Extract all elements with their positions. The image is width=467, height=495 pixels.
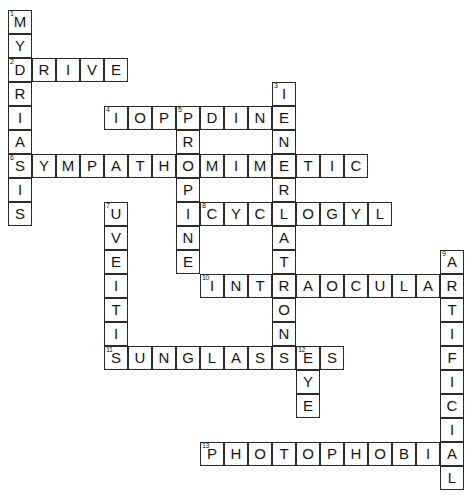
crossword-cell-r18-c15[interactable]: O [368,442,392,466]
crossword-cell-r8-c14[interactable]: Y [344,202,368,226]
crossword-cell-r17-c18[interactable]: I [440,418,464,442]
crossword-cell-r18-c13[interactable]: P [320,442,344,466]
crossword-cell-r6-c14[interactable]: C [344,154,368,178]
crossword-cell-r15-c18[interactable]: I [440,370,464,394]
crossword-cell-r14-c8[interactable]: L [200,346,224,370]
crossword-cell-r15-c12[interactable]: Y [296,370,320,394]
crossword-cell-r2-c4[interactable]: E [104,58,128,82]
crossword-cell-r6-c10[interactable]: M [248,154,272,178]
crossword-cell-r2-c0[interactable]: 2D [8,58,32,82]
crossword-cell-r12-c4[interactable]: T [104,298,128,322]
crossword-cell-r0-c0[interactable]: 1M [8,10,32,34]
crossword-cell-r8-c4[interactable]: 7U [104,202,128,226]
crossword-cell-r14-c12[interactable]: 12E [296,346,320,370]
crossword-cell-r11-c17[interactable]: A [416,274,440,298]
crossword-cell-r14-c7[interactable]: G [176,346,200,370]
crossword-cell-r18-c10[interactable]: O [248,442,272,466]
crossword-cell-r6-c5[interactable]: T [128,154,152,178]
crossword-cell-r16-c12[interactable]: E [296,394,320,418]
crossword-cell-r9-c11[interactable]: A [272,226,296,250]
crossword-cell-r16-c18[interactable]: C [440,394,464,418]
crossword-cell-r11-c12[interactable]: A [296,274,320,298]
crossword-cell-r11-c13[interactable]: O [320,274,344,298]
crossword-cell-r4-c9[interactable]: I [224,106,248,130]
crossword-cell-r14-c18[interactable]: F [440,346,464,370]
crossword-cell-r18-c8[interactable]: 13P [200,442,224,466]
crossword-cell-r4-c11[interactable]: E [272,106,296,130]
crossword-cell-r10-c7[interactable]: E [176,250,200,274]
crossword-cell-r6-c13[interactable]: I [320,154,344,178]
crossword-cell-r5-c11[interactable]: N [272,130,296,154]
crossword-cell-r14-c5[interactable]: U [128,346,152,370]
crossword-cell-r7-c0[interactable]: I [8,178,32,202]
crossword-cell-r18-c16[interactable]: B [392,442,416,466]
crossword-cell-r4-c4[interactable]: 4I [104,106,128,130]
crossword-cell-r6-c6[interactable]: H [152,154,176,178]
crossword-cell-r11-c15[interactable]: U [368,274,392,298]
crossword-cell-r2-c3[interactable]: V [80,58,104,82]
crossword-cell-r4-c7[interactable]: 5P [176,106,200,130]
crossword-cell-r11-c18[interactable]: R [440,274,464,298]
crossword-cell-r2-c2[interactable]: I [56,58,80,82]
crossword-cell-r12-c11[interactable]: O [272,298,296,322]
crossword-cell-r4-c5[interactable]: O [128,106,152,130]
crossword-cell-r5-c0[interactable]: A [8,130,32,154]
crossword-cell-r3-c0[interactable]: R [8,82,32,106]
crossword-cell-r8-c10[interactable]: C [248,202,272,226]
crossword-cell-r18-c14[interactable]: H [344,442,368,466]
crossword-cell-r18-c12[interactable]: O [296,442,320,466]
crossword-cell-r6-c3[interactable]: P [80,154,104,178]
crossword-cell-r8-c8[interactable]: 8C [200,202,224,226]
crossword-cell-r11-c14[interactable]: C [344,274,368,298]
crossword-cell-r11-c4[interactable]: I [104,274,128,298]
crossword-cell-r14-c10[interactable]: S [248,346,272,370]
crossword-cell-r5-c7[interactable]: R [176,130,200,154]
crossword-cell-r10-c4[interactable]: E [104,250,128,274]
crossword-cell-r7-c7[interactable]: P [176,178,200,202]
crossword-cell-r8-c0[interactable]: S [8,202,32,226]
crossword-cell-r11-c10[interactable]: T [248,274,272,298]
crossword-cell-r6-c7[interactable]: O [176,154,200,178]
crossword-cell-r18-c17[interactable]: I [416,442,440,466]
crossword-cell-r4-c6[interactable]: P [152,106,176,130]
crossword-cell-r11-c16[interactable]: L [392,274,416,298]
crossword-cell-r19-c18[interactable]: L [440,466,464,490]
crossword-cell-r3-c11[interactable]: 3I [272,82,296,106]
crossword-cell-r8-c7[interactable]: I [176,202,200,226]
crossword-cell-r8-c13[interactable]: G [320,202,344,226]
crossword-cell-r8-c15[interactable]: L [368,202,392,226]
crossword-cell-r10-c11[interactable]: T [272,250,296,274]
crossword-cell-r6-c2[interactable]: M [56,154,80,178]
crossword-cell-r11-c11[interactable]: R [272,274,296,298]
crossword-cell-r6-c8[interactable]: M [200,154,224,178]
crossword-cell-r14-c9[interactable]: A [224,346,248,370]
crossword-cell-r6-c0[interactable]: 6S [8,154,32,178]
crossword-cell-r9-c7[interactable]: N [176,226,200,250]
crossword-cell-r14-c4[interactable]: 11S [104,346,128,370]
crossword-cell-r10-c18[interactable]: 9A [440,250,464,274]
crossword-cell-r7-c11[interactable]: R [272,178,296,202]
crossword-cell-r6-c11[interactable]: E [272,154,296,178]
crossword-cell-r14-c6[interactable]: N [152,346,176,370]
crossword-cell-r18-c18[interactable]: A [440,442,464,466]
crossword-cell-r18-c9[interactable]: H [224,442,248,466]
crossword-cell-r11-c8[interactable]: 10I [200,274,224,298]
crossword-cell-r6-c12[interactable]: T [296,154,320,178]
crossword-cell-r11-c9[interactable]: N [224,274,248,298]
crossword-cell-r8-c9[interactable]: Y [224,202,248,226]
crossword-cell-r14-c13[interactable]: S [320,346,344,370]
crossword-cell-r4-c0[interactable]: I [8,106,32,130]
crossword-cell-r1-c0[interactable]: Y [8,34,32,58]
crossword-cell-r18-c11[interactable]: T [272,442,296,466]
crossword-cell-r14-c11[interactable]: S [272,346,296,370]
crossword-cell-r8-c12[interactable]: O [296,202,320,226]
crossword-cell-r6-c9[interactable]: I [224,154,248,178]
crossword-cell-r6-c1[interactable]: Y [32,154,56,178]
crossword-cell-r12-c18[interactable]: T [440,298,464,322]
crossword-cell-r6-c4[interactable]: A [104,154,128,178]
crossword-cell-r2-c1[interactable]: R [32,58,56,82]
crossword-cell-r13-c11[interactable]: N [272,322,296,346]
crossword-cell-r8-c11[interactable]: L [272,202,296,226]
crossword-cell-r13-c4[interactable]: I [104,322,128,346]
crossword-cell-r9-c4[interactable]: V [104,226,128,250]
